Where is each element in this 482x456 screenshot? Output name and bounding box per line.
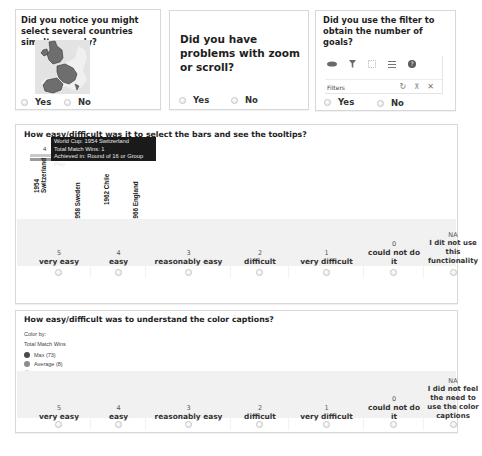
option-no-label: No [78,97,91,107]
option-yes[interactable]: Yes [21,97,51,107]
select-rectangle-icon[interactable] [368,60,376,68]
option-yes-label: Yes [193,95,209,105]
question-select-countries: Did you notice you might select several … [15,9,161,110]
option-no[interactable]: No [377,98,404,108]
x-label-1966-england: 1966 England [132,181,139,222]
filters-row: Filters ↻ ⊼ ✕ [325,79,442,94]
scale-4: 4easy [91,231,146,266]
scale-0: 0could not do it [364,377,424,421]
rating-radios [16,418,457,430]
tooltip-match-wins: Total Match Wins: 1 [54,146,153,154]
option-no-label: No [245,95,258,105]
tooltip-achieved: Achieved in: Round of 16 or Group Play [54,153,153,168]
rating-radios [16,266,457,278]
scale-3: 3reasonably easy [146,377,231,421]
radio-scale-5[interactable] [55,421,62,428]
tooltip-world-cup: World Cup: 1954 Switzerland [54,138,153,146]
rating-scale-labels: 5very easy 4easy 3reasonably easy 2diffi… [16,231,457,266]
radio-scale-3[interactable] [185,421,192,428]
radio-scale-2[interactable] [256,269,263,276]
bar-1954-highlight[interactable] [30,154,53,157]
question-title: Did you have problems with zoom or scrol… [180,32,305,74]
radio-scale-4[interactable] [115,421,122,428]
radio-scale-5[interactable] [55,269,62,276]
scale-na: NAI dit not use this functionality [424,231,482,266]
menu-icon[interactable] [388,61,396,68]
question-title: Did you use the filter to obtain the num… [323,15,453,48]
radio-scale-4[interactable] [115,269,122,276]
close-icon[interactable]: ✕ [427,83,434,91]
radio-yes[interactable] [21,99,28,106]
reset-icon[interactable]: ↻ [399,83,406,91]
scale-1: 1very difficult [289,231,364,266]
radio-no[interactable] [231,97,238,104]
legend-heading: Color by: [24,329,66,338]
radio-scale-2[interactable] [256,421,263,428]
bar-tooltip: World Cup: 1954 Switzerland Total Match … [51,137,156,161]
question-bars-tooltips: How easy/difficult was it to select the … [15,124,458,304]
question-title: How easy/difficult was to understand the… [24,315,274,324]
radio-scale-na[interactable] [450,269,457,276]
scale-3: 3reasonably easy [146,231,231,266]
question-filter-goals: Did you use the filter to obtain the num… [315,10,456,111]
legend-swatch-average [24,361,30,367]
option-no[interactable]: No [231,95,258,105]
question-color-captions: How easy/difficult was to understand the… [15,310,458,433]
lasso-icon[interactable] [327,61,337,67]
help-icon[interactable]: ? [408,60,416,68]
radio-scale-0[interactable] [390,269,397,276]
radio-scale-1[interactable] [323,269,330,276]
radio-scale-3[interactable] [185,269,192,276]
scale-2: 2difficult [231,231,289,266]
option-yes-label: Yes [338,97,354,107]
filter-toolbar: ? Filters ↻ ⊼ ✕ [325,56,443,94]
option-yes[interactable]: Yes [179,95,209,105]
option-no-label: No [391,98,404,108]
europe-map[interactable] [35,40,90,94]
option-yes-label: Yes [35,97,51,107]
toolbar-icons: ? [327,60,416,68]
x-label-1954: 1954 Switzerland [33,158,47,193]
scale-2: 2difficult [231,377,289,421]
radio-no[interactable] [64,99,71,106]
svg-text:?: ? [410,60,413,67]
scale-1: 1very difficult [289,377,364,421]
filters-label: Filters [327,84,345,91]
legend-item-max[interactable]: Max (73) [24,350,66,359]
option-no[interactable]: No [64,97,91,107]
option-yes[interactable]: Yes [324,97,354,107]
legend-measure: Total Match Wins [24,339,66,348]
scale-5: 5very easy [27,231,91,266]
radio-scale-na[interactable] [450,421,457,428]
radio-yes[interactable] [324,99,331,106]
radio-yes[interactable] [179,97,186,104]
radio-scale-0[interactable] [390,421,397,428]
scale-0: 0could not do it [364,231,424,266]
question-zoom-scroll: Did you have problems with zoom or scrol… [169,10,309,110]
scale-5: 5very easy [27,377,91,421]
pin-icon[interactable]: ⊼ [414,83,419,91]
rating-scale-labels: 5very easy 4easy 3reasonably easy 2diffi… [16,377,457,418]
bar-value-label: 4 [43,146,46,152]
filter-icon[interactable] [349,60,356,68]
scale-na: NAI did not feel the need to use the col… [424,377,482,421]
x-label-1958-sweden: 1958 Sweden [74,182,81,222]
scale-4: 4easy [91,377,146,421]
radio-scale-1[interactable] [323,421,330,428]
radio-no[interactable] [377,100,384,107]
legend-item-average[interactable]: Average (8) [24,359,66,368]
x-label-1962-chile: 1962 Chile [103,174,110,205]
legend-swatch-max [24,352,30,358]
